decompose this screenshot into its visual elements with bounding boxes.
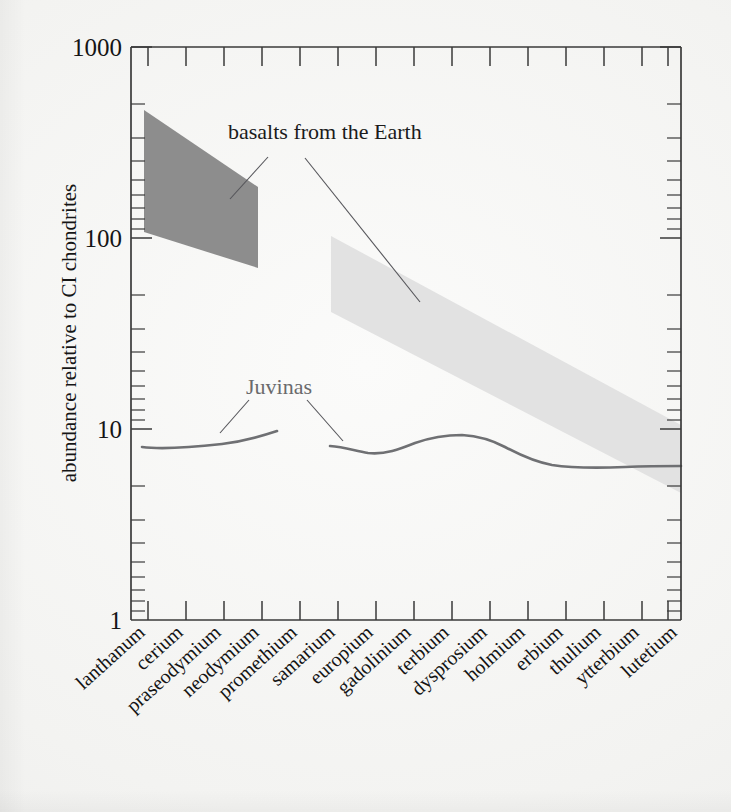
y-tick-label-10: 10 <box>97 416 122 443</box>
y-axis-title: abundance relative to CI chondrites <box>57 184 81 483</box>
x-axis-ticks-top <box>148 47 668 66</box>
y-tick-label-1000: 1000 <box>72 34 122 61</box>
x-axis-ticks <box>148 601 668 620</box>
y-tick-label-1: 1 <box>110 607 123 634</box>
y-axis-ticks-right <box>660 47 681 611</box>
y-tick-label-100: 100 <box>85 225 123 252</box>
annotation-basalts-from-the-earth: basalts from the Earth <box>228 119 422 144</box>
chart-svg: 1000 100 10 1 abundance relative to CI c… <box>0 0 731 812</box>
x-axis-category-labels: lanthanum cerium praseodymium neodymium … <box>71 620 681 717</box>
band-basalts-heavy-ree <box>331 236 681 493</box>
annotation-juvinas: Juvinas <box>246 374 312 399</box>
ree-abundance-figure: 1000 100 10 1 abundance relative to CI c… <box>0 0 731 812</box>
